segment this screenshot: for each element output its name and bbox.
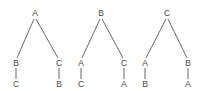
node-left-child: B	[142, 79, 148, 89]
node-right: C	[56, 58, 62, 68]
edge-root-left	[146, 19, 166, 58]
node-left: A	[78, 58, 84, 68]
edge-root-right	[168, 19, 187, 58]
node-right: B	[185, 58, 191, 68]
edge-root-left	[17, 19, 34, 58]
edge-root-right	[102, 19, 123, 58]
tree-2: B A C C A	[78, 8, 127, 89]
node-right-child: B	[56, 79, 62, 89]
node-left: B	[13, 58, 19, 68]
node-left-child: C	[13, 79, 19, 89]
node-right-child: A	[121, 79, 127, 89]
tree-diagram: A B C C B B A C C A C A B B A	[0, 0, 199, 91]
node-root: C	[164, 8, 170, 18]
node-left-child: C	[78, 79, 84, 89]
node-root: A	[32, 8, 38, 18]
tree-1: A B C C B	[13, 8, 62, 89]
edge-root-right	[36, 19, 58, 58]
node-right: C	[121, 58, 127, 68]
tree-3: C A B B A	[142, 8, 191, 89]
node-root: B	[98, 8, 104, 18]
edge-root-left	[82, 19, 100, 58]
tree-diagram-svg: A B C C B B A C C A C A B B A	[0, 0, 199, 91]
node-right-child: A	[185, 79, 191, 89]
node-left: A	[142, 58, 148, 68]
